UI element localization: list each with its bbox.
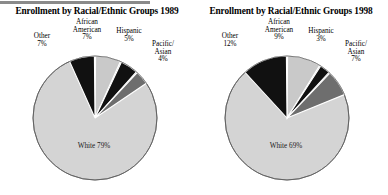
slice-label-african-american-pct-1989: 7% [62, 34, 112, 42]
slice-label-pacific-asian-1998: Pacific/ Asian 7% [335, 41, 377, 64]
slice-label-white-1998: White 69% [264, 143, 308, 151]
slice-label-other-1998: Other 12% [211, 33, 249, 48]
slice-label-white-pct-1989: 79% [97, 142, 110, 150]
slice-label-pacific-asian-1989: Pacific/ Asian 4% [142, 41, 184, 64]
slice-label-african-american-1998: African American 9% [254, 19, 304, 42]
slice-label-african-american-1989: African American 7% [62, 19, 112, 42]
slice-label-other-pct-1998: 12% [211, 41, 249, 49]
slice-label-pacific-asian-pct-1989: 4% [142, 56, 184, 64]
slice-label-other-pct-1989: 7% [24, 41, 60, 49]
chart-panel-1998: Enrollment by Racial/Ethnic Groups 1998 … [194, 0, 388, 195]
slice-label-white-name-1998: White [270, 142, 288, 150]
slice-label-white-1989: White 79% [72, 143, 116, 151]
slice-label-african-american-pct-1998: 9% [254, 34, 304, 42]
slice-label-white-name-1989: White [78, 142, 96, 150]
slice-label-other-1989: Other 7% [24, 33, 60, 48]
pie-1989: Other 7% African American 7% Hispanic 5%… [0, 0, 194, 195]
pie-1998: Other 12% African American 9% Hispanic 3… [194, 0, 388, 195]
chart-figure: Enrollment by Racial/Ethnic Groups 1989 … [0, 0, 388, 195]
slice-label-white-pct-1998: 69% [289, 142, 302, 150]
slice-label-pacific-asian-pct-1998: 7% [335, 56, 377, 64]
chart-panel-1989: Enrollment by Racial/Ethnic Groups 1989 … [0, 0, 194, 195]
